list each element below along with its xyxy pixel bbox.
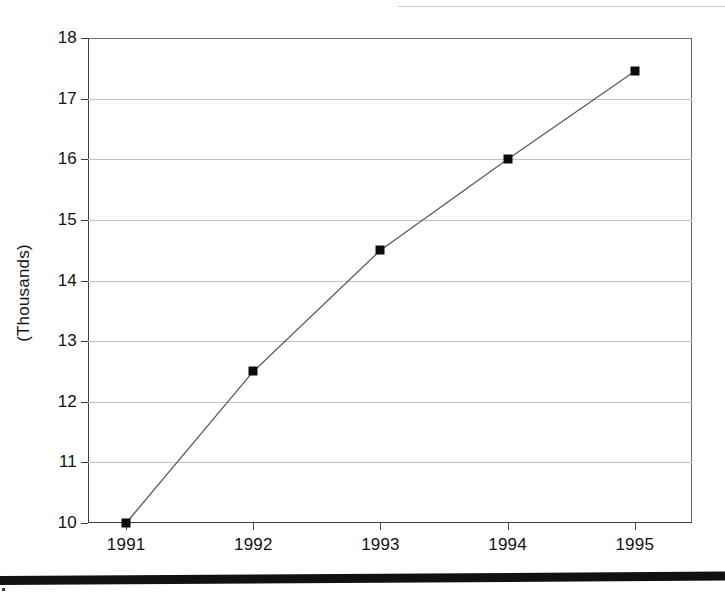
y-tick-label: 15 bbox=[58, 210, 77, 230]
x-tick-mark bbox=[253, 523, 254, 530]
y-tick-label: 12 bbox=[58, 392, 77, 412]
y-tick-label: 16 bbox=[58, 149, 77, 169]
y-tick-label: 14 bbox=[58, 271, 77, 291]
data-point-marker bbox=[503, 155, 512, 164]
x-tick-label: 1995 bbox=[615, 535, 654, 555]
y-tick-mark bbox=[81, 462, 88, 463]
x-tick-label: 1993 bbox=[361, 535, 400, 555]
y-tick-mark bbox=[81, 159, 88, 160]
x-tick-label: 1994 bbox=[488, 535, 527, 555]
y-tick-mark bbox=[81, 341, 88, 342]
y-tick-mark bbox=[81, 38, 88, 39]
line-chart-figure: (Thousands) 101112131415161718 199119921… bbox=[0, 0, 725, 595]
y-tick-label: 18 bbox=[58, 28, 77, 48]
scan-speck bbox=[2, 588, 5, 591]
series-line bbox=[88, 38, 692, 523]
y-tick-mark bbox=[81, 281, 88, 282]
data-point-marker bbox=[376, 246, 385, 255]
x-tick-mark bbox=[508, 523, 509, 530]
data-point-marker bbox=[630, 67, 639, 76]
y-tick-label: 10 bbox=[58, 513, 77, 533]
x-tick-label: 1991 bbox=[107, 535, 146, 555]
y-tick-mark bbox=[81, 523, 88, 524]
data-point-marker bbox=[122, 519, 131, 528]
data-point-marker bbox=[249, 367, 258, 376]
y-tick-label: 11 bbox=[59, 452, 77, 472]
y-tick-mark bbox=[81, 402, 88, 403]
x-tick-mark bbox=[380, 523, 381, 530]
page-background: (Thousands) 101112131415161718 199119921… bbox=[0, 0, 725, 595]
plot-area: 101112131415161718 19911992199319941995 bbox=[88, 38, 692, 523]
y-tick-mark bbox=[81, 99, 88, 100]
x-tick-label: 1992 bbox=[234, 535, 273, 555]
x-tick-mark bbox=[635, 523, 636, 530]
y-tick-label: 13 bbox=[58, 331, 77, 351]
y-tick-mark bbox=[81, 220, 88, 221]
y-tick-label: 17 bbox=[58, 89, 77, 109]
y-axis-label: (Thousands) bbox=[13, 223, 35, 363]
